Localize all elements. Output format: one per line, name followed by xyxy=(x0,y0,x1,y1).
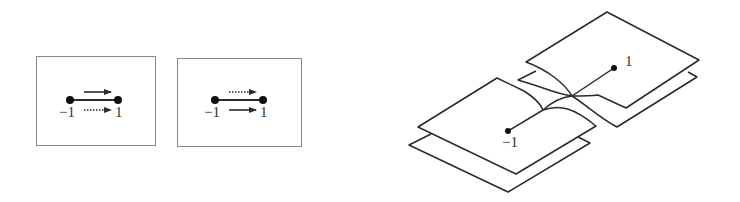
surface-point-one-dot xyxy=(611,65,617,71)
point-one-dot xyxy=(259,96,267,104)
point-neg-one-dot xyxy=(66,96,74,104)
panel-left-label-pos: 1 xyxy=(115,105,123,120)
diagram-canvas xyxy=(0,0,740,202)
riemann-surface xyxy=(409,12,699,192)
sheet-upper-right xyxy=(526,12,699,108)
surface-label-pos: 1 xyxy=(625,54,633,69)
panel-middle-label-pos: 1 xyxy=(260,105,268,120)
panel-left-label-neg: −1 xyxy=(59,105,75,120)
surface-label-neg: −1 xyxy=(502,135,518,150)
panel-middle-label-neg: −1 xyxy=(204,105,220,120)
point-neg-one-dot xyxy=(211,96,219,104)
point-one-dot xyxy=(114,96,122,104)
